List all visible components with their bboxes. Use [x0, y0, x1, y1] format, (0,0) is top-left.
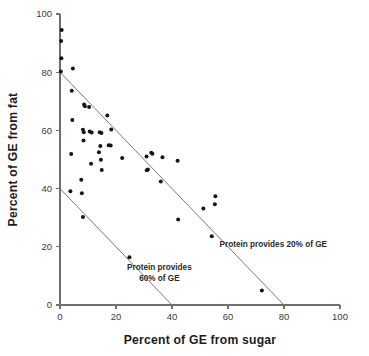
data-points	[59, 28, 264, 292]
annotation-line: Protein provides 20% of GE	[220, 240, 328, 249]
data-point	[59, 70, 63, 74]
data-point	[109, 144, 113, 148]
data-point	[79, 178, 83, 182]
x-tick-label: 20	[111, 311, 122, 322]
data-point	[150, 152, 154, 156]
data-point	[213, 202, 217, 206]
axes: 020406080100020406080100	[36, 8, 348, 322]
data-point	[60, 28, 64, 32]
data-point	[145, 155, 149, 159]
data-point	[99, 131, 103, 135]
data-point	[260, 288, 264, 292]
data-point	[99, 158, 103, 162]
annotation-protein-20: Protein provides 20% of GE	[220, 240, 328, 249]
data-point	[89, 162, 93, 166]
data-point	[105, 114, 109, 118]
data-point	[213, 194, 217, 198]
data-point	[82, 130, 86, 134]
annotation-protein-60: Protein provides60% of GE	[127, 263, 192, 283]
data-point	[160, 155, 164, 159]
data-point	[70, 118, 74, 122]
data-point	[59, 56, 63, 60]
data-point	[82, 139, 86, 143]
x-tick-label: 100	[332, 311, 348, 322]
x-axis-title: Percent of GE from sugar	[124, 333, 276, 347]
data-point	[68, 189, 72, 193]
data-point	[69, 152, 73, 156]
y-tick-label: 60	[41, 125, 52, 136]
data-point	[100, 168, 104, 172]
data-point	[176, 217, 180, 221]
x-tick-label: 0	[57, 311, 62, 322]
plot-canvas: 020406080100020406080100 Protein provide…	[0, 0, 369, 356]
data-point	[109, 128, 113, 132]
annotation-line: Protein provides	[127, 263, 192, 272]
annotation-line: 60% of GE	[139, 274, 180, 283]
x-tick-label: 60	[223, 311, 234, 322]
y-tick-label: 40	[41, 183, 52, 194]
x-tick-label: 40	[167, 311, 178, 322]
data-point	[210, 234, 214, 238]
protein-60-percent-line	[60, 189, 172, 305]
y-tick-label: 100	[36, 8, 52, 19]
data-point	[97, 150, 101, 154]
scatter-plot-figure: 020406080100020406080100 Protein provide…	[0, 0, 369, 356]
y-tick-label: 20	[41, 241, 52, 252]
y-axis-title: Percent of GE from fat	[6, 93, 20, 227]
y-tick-label: 80	[41, 67, 52, 78]
data-point	[80, 191, 84, 195]
data-point	[81, 215, 85, 219]
data-point	[87, 105, 91, 109]
data-point	[59, 39, 63, 43]
y-tick-label: 0	[47, 299, 52, 310]
data-point	[98, 144, 102, 148]
data-point	[71, 66, 75, 70]
plot-annotations: Protein provides 20% of GEProtein provid…	[127, 240, 327, 283]
data-point	[146, 167, 150, 171]
data-point	[70, 89, 74, 93]
data-point	[83, 104, 87, 108]
data-point	[176, 159, 180, 163]
data-point	[90, 130, 94, 134]
x-tick-label: 80	[279, 311, 290, 322]
data-point	[201, 206, 205, 210]
data-point	[127, 255, 131, 259]
data-point	[120, 156, 124, 160]
data-point	[159, 180, 163, 184]
